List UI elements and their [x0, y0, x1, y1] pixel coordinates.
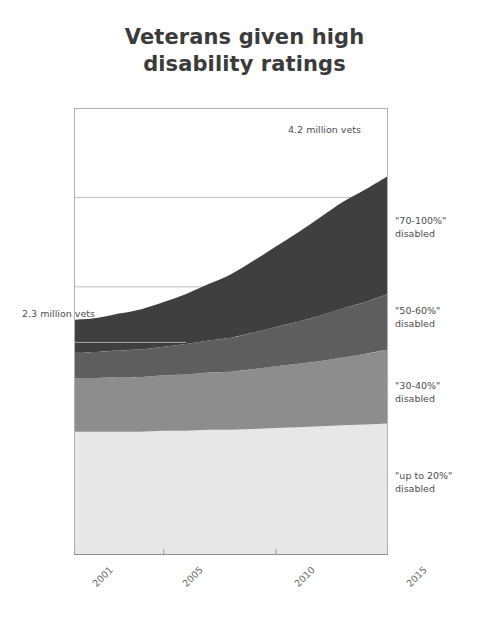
series-label-50-60: "50-60%" disabled: [395, 305, 440, 330]
series-label-up-to-20-word: disabled: [395, 483, 452, 496]
series-label-30-40-word: disabled: [395, 393, 440, 406]
x-tick-label-2010: 2010: [292, 564, 317, 589]
annotation-end-value: 4.2 million vets: [288, 124, 361, 135]
area-band-0: [74, 424, 388, 555]
series-label-30-40: "30-40%" disabled: [395, 380, 440, 405]
x-tick-label-2015: 2015: [404, 564, 429, 589]
series-label-up-to-20-range: "up to 20%": [395, 470, 452, 483]
series-label-70-100-range: "70-100%": [395, 215, 446, 228]
x-tick-label-2005: 2005: [180, 564, 205, 589]
x-tick-label-2001: 2001: [90, 564, 115, 589]
stacked-area-chart: [74, 108, 388, 555]
chart-title-line-1: Veterans given high: [0, 24, 489, 51]
series-label-up-to-20: "up to 20%" disabled: [395, 470, 452, 495]
chart-title-line-2: disability ratings: [0, 51, 489, 78]
series-label-50-60-word: disabled: [395, 318, 440, 331]
chart-container: Veterans given high disability ratings 2…: [0, 0, 489, 623]
chart-title: Veterans given high disability ratings: [0, 24, 489, 78]
series-label-50-60-range: "50-60%": [395, 305, 440, 318]
series-label-30-40-range: "30-40%": [395, 380, 440, 393]
plot-area: [74, 108, 388, 555]
series-label-70-100: "70-100%" disabled: [395, 215, 446, 240]
series-label-70-100-word: disabled: [395, 228, 446, 241]
annotation-start-value: 2.3 million vets: [22, 308, 95, 319]
